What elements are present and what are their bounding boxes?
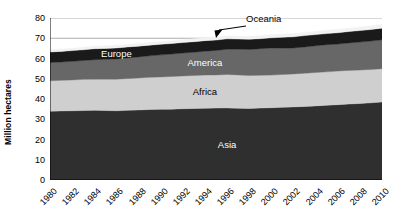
area-series-svg [50,18,382,180]
plot-area: AsiaAfricaAmericaEurope [50,18,382,180]
x-axis-tick-labels: 1980198219841986198819901992199419961998… [50,180,382,224]
y-tick-label: 80 [23,13,45,23]
y-tick-label: 0 [23,175,45,185]
y-tick-label: 50 [23,74,45,84]
y-axis-tick-labels: 01020304050607080 [20,18,45,180]
y-tick-label: 20 [23,135,45,145]
stacked-area-chart: Million hectares 01020304050607080 AsiaA… [0,0,397,224]
oceania-annotation-label: Oceania [246,13,281,24]
y-tick-label: 60 [23,54,45,64]
area-series-asia [50,102,382,180]
y-tick-label: 30 [23,114,45,124]
y-tick-label: 40 [23,94,45,104]
y-tick-label: 70 [23,33,45,43]
y-axis-title: Million hectares [0,0,16,224]
y-tick-label: 10 [23,155,45,165]
